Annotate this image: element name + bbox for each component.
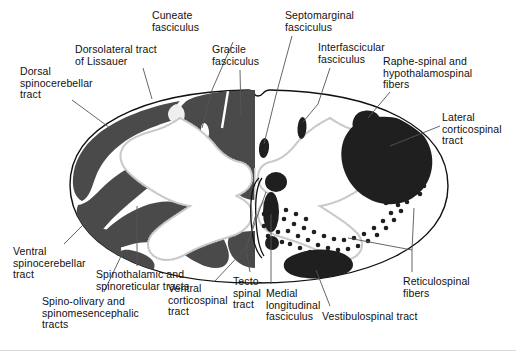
- region-ventral-corticospinal-tract: [265, 172, 287, 192]
- label-cuneate-fasciculus: Cuneate fasciculus: [152, 10, 199, 33]
- label-ventral-corticospinal: Ventral corticospinal tract: [168, 283, 228, 318]
- label-dorsolateral-tract: Dorsolateral tract of Lissauer: [75, 44, 157, 67]
- label-septomarginal-fasciculus: Septomarginal fasciculus: [285, 10, 354, 33]
- label-raphe-spinal-fibers: Raphe-spinal and hypothalamospinal fiber…: [383, 56, 472, 91]
- label-ventral-spinocerebellar: Ventral spinocerebellar tract: [13, 246, 86, 281]
- label-medial-longitudinal: Medial longitudinal fasciculus: [266, 288, 320, 323]
- label-gracile-fasciculus: Gracile fasciculus: [212, 44, 259, 67]
- figure-canvas: Cuneate fasciculus Septomarginal fascicu…: [0, 0, 516, 351]
- label-dorsal-spinocerebellar: Dorsal spinocerebellar tract: [20, 66, 93, 101]
- label-interfascicular-fasciculus: Interfascicular fasciculus: [318, 42, 385, 65]
- label-vestibulospinal-tract: Vestibulospinal tract: [322, 311, 418, 323]
- leader-ventral-spinocerebellar: [64, 218, 90, 244]
- leader-dorsal-spinocerebellar: [72, 100, 110, 128]
- leader-dorsolateral: [143, 68, 152, 99]
- label-tecto-spinal-tract: Tecto- spinal tract: [233, 276, 262, 311]
- label-reticulospinal-fibers: Reticulospinal fibers: [403, 276, 470, 299]
- label-lateral-corticospinal: Lateral corticospinal tract: [442, 112, 502, 147]
- label-spino-olivary-tracts: Spino-olivary and spinomesencephalic tra…: [42, 296, 139, 331]
